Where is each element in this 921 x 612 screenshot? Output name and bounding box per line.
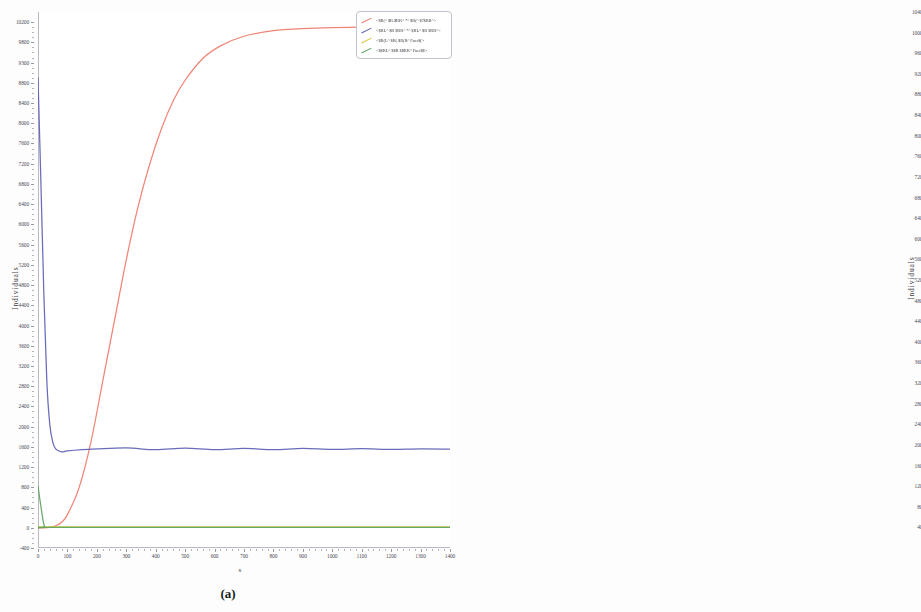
y-tick-mark: [31, 326, 34, 327]
y-tick-label: 7200: [915, 174, 921, 180]
y-tick-label: 6400: [915, 215, 921, 221]
y-tick-mark-minor: [32, 376, 34, 377]
x-tick-mark-minor: [268, 549, 269, 551]
x-tick-mark: [421, 549, 422, 552]
y-tick-mark: [31, 386, 34, 387]
y-tick-mark-minor: [32, 78, 34, 79]
y-tick-label: 1200: [915, 483, 921, 489]
y-tick-mark: [31, 528, 34, 529]
x-tick-mark-minor: [250, 549, 251, 551]
y-axis-label-a: Individuals: [11, 266, 20, 310]
x-tick-mark: [156, 549, 157, 552]
x-tick-mark: [215, 549, 216, 552]
x-tick-mark-minor: [315, 549, 316, 551]
y-tick-mark-minor: [32, 295, 34, 296]
y-tick-label: 8000: [19, 120, 29, 126]
y-tick-mark: [31, 103, 34, 104]
y-tick-mark: [31, 305, 34, 306]
x-tick-mark-minor: [144, 549, 145, 551]
x-tick-mark-minor: [103, 549, 104, 551]
y-tick-mark-minor: [32, 118, 34, 119]
y-tick-mark-minor: [32, 497, 34, 498]
y-tick-mark-minor: [32, 381, 34, 382]
y-tick-mark: [31, 224, 34, 225]
x-tick-mark-minor: [85, 549, 86, 551]
y-tick-mark-minor: [32, 138, 34, 139]
x-tick-mark-minor: [232, 549, 233, 551]
legend-item: <$$RL^ $$R $$RR^ Fuer$$>: [360, 45, 447, 55]
y-tick-mark-minor: [32, 351, 34, 352]
y-tick-mark-minor: [32, 229, 34, 230]
y-tick-mark-minor: [32, 417, 34, 418]
y-tick-mark-minor: [32, 442, 34, 443]
y-tick-mark: [31, 508, 34, 509]
y-tick-label: 8400: [915, 112, 921, 118]
y-tick-mark-minor: [32, 280, 34, 281]
y-tick-label: 8400: [19, 100, 29, 106]
y-tick-label: -400: [20, 545, 29, 551]
y-tick-label: 6400: [19, 201, 29, 207]
y-tick-mark: [31, 63, 34, 64]
x-tick-mark-minor: [415, 549, 416, 551]
x-tick-mark-minor: [368, 549, 369, 551]
y-tick-mark-minor: [32, 73, 34, 74]
y-tick-label: 2000: [915, 442, 921, 448]
x-tick-mark: [391, 549, 392, 552]
x-tick-mark-minor: [167, 549, 168, 551]
legend-item: <$R(L^ $R( $R(R^ Fuer$(>: [360, 35, 447, 45]
y-tick-label: 2800: [19, 383, 29, 389]
y-tick-mark-minor: [32, 356, 34, 357]
plot-area-a: [38, 12, 450, 548]
y-tick-mark-minor: [32, 310, 34, 311]
y-tick-label: 7600: [19, 140, 29, 146]
x-tick-mark-minor: [56, 549, 57, 551]
y-tick-mark-minor: [32, 174, 34, 175]
y-tick-mark: [31, 265, 34, 266]
y-tick-mark-minor: [32, 320, 34, 321]
x-tick-mark-minor: [120, 549, 121, 551]
y-tick-mark-minor: [32, 341, 34, 342]
y-tick-mark-minor: [32, 250, 34, 251]
y-tick-label: 1600: [915, 463, 921, 469]
y-tick-mark-minor: [32, 37, 34, 38]
y-tick-mark-minor: [32, 133, 34, 134]
legend-a: <$R(^ $R.$RR^ *^ $R(^ $?$RR^><$RL^ $R $R…: [356, 11, 452, 59]
x-tick-label: 200: [93, 553, 101, 559]
y-tick-mark: [31, 366, 34, 367]
y-tick-label: 2000: [19, 424, 29, 430]
x-tick-mark: [67, 549, 68, 552]
y-tick-mark: [31, 447, 34, 448]
y-tick-label: 3200: [19, 363, 29, 369]
x-tick-mark-minor: [309, 549, 310, 551]
x-tick-mark: [185, 549, 186, 552]
y-tick-mark-minor: [32, 315, 34, 316]
y-tick-mark: [31, 143, 34, 144]
y-tick-mark: [31, 83, 34, 84]
y-tick-mark: [31, 406, 34, 407]
y-tick-label: 7600: [915, 153, 921, 159]
x-tick-mark: [362, 549, 363, 552]
y-tick-label: 9200: [915, 71, 921, 77]
x-tick-label: 1300: [415, 553, 425, 559]
y-tick-mark-minor: [32, 300, 34, 301]
x-tick-mark: [244, 549, 245, 552]
figure-container: -400040080012001600200024002800320036004…: [0, 0, 921, 612]
y-axis-label-b: Individuals: [907, 256, 916, 300]
y-tick-mark: [31, 123, 34, 124]
y-tick-mark-minor: [32, 513, 34, 514]
y-tick-label: 0: [26, 525, 29, 531]
y-tick-label: 6800: [915, 195, 921, 201]
y-tick-mark-minor: [32, 538, 34, 539]
y-tick-label: 400: [21, 505, 29, 511]
y-tick-mark-minor: [32, 533, 34, 534]
y-tick-mark-minor: [32, 234, 34, 235]
y-tick-label: 1200: [19, 464, 29, 470]
y-tick-label: 3600: [19, 343, 29, 349]
y-tick-mark-minor: [32, 396, 34, 397]
x-tick-mark-minor: [173, 549, 174, 551]
x-tick-label: 500: [181, 553, 189, 559]
y-tick-label: 5200: [19, 262, 29, 268]
chart-panel-a: -400040080012001600200024002800320036004…: [0, 0, 455, 612]
x-tick-mark-minor: [50, 549, 51, 551]
x-tick-mark-minor: [44, 549, 45, 551]
